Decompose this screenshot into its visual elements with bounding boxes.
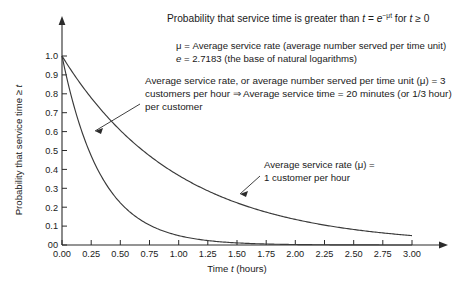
x-axis-title-lead: Time: [207, 263, 231, 274]
annotation-mu1-arrowhead: [240, 191, 248, 197]
x-axis-title-rest: (hours): [234, 263, 267, 274]
x-axis-tick-labels: 0.00 0.25 0.50 0.75 1.00 1.25 1.50 1.75 …: [53, 249, 421, 259]
annotation-mu3-line-2: customers per hour ⇒ Average service tim…: [145, 88, 452, 99]
exponential-service-time-chart: Probability that service time is greater…: [0, 0, 474, 287]
x-tick-label-0: 0.00: [53, 249, 71, 259]
y-axis-title-var: t: [13, 84, 24, 87]
x-tick-label-10: 2.50: [345, 249, 363, 259]
x-tick-label-12: 3.00: [403, 249, 421, 259]
y-axis-title: Probability that service time ≥ t: [13, 84, 24, 215]
x-tick-label-5: 1.25: [199, 249, 217, 259]
x-tick-label-4: 1.00: [170, 249, 188, 259]
definition-line-e: e = 2.7183 (the base of natural logarith…: [176, 53, 357, 64]
x-tick-label-3: 0.75: [141, 249, 159, 259]
x-tick-label-8: 2.00: [286, 249, 304, 259]
x-tick-label-6: 1.50: [228, 249, 246, 259]
annotation-mu1-line-2: 1 customer per hour: [264, 172, 351, 183]
annotation-mu1-line-1: Average service rate (μ) =: [264, 159, 375, 170]
y-axis-arrowhead: [59, 16, 66, 25]
x-tick-label-2: 0.50: [111, 249, 129, 259]
title-tail-rest: ≥ 0: [412, 13, 429, 24]
x-tick-label-9: 2.25: [316, 249, 334, 259]
x-axis-title: Time t (hours): [207, 263, 266, 274]
x-tick-label-1: 0.25: [82, 249, 100, 259]
y-tick-label-8: 0.8: [45, 89, 58, 99]
chart-title: Probability that service time is greater…: [167, 12, 430, 24]
y-tick-label-3: 0.3: [45, 184, 58, 194]
x-axis-arrowhead: [439, 242, 448, 249]
title-equals: =: [365, 13, 377, 24]
y-tick-label-5: 0.5: [45, 146, 58, 156]
y-tick-label-1: 0.1: [45, 221, 58, 231]
annotation-mu1-leader-line: [240, 176, 260, 194]
y-tick-label-9: 0.9: [45, 70, 58, 80]
y-tick-label-10: 1.0: [45, 51, 58, 61]
annotation-mu3-line-3: per customer: [145, 101, 203, 112]
y-axis-tick-labels: 00 0.1 0.2 0.3 0.4 0.5 0.6 0.7 0.8 0.9 1…: [45, 51, 58, 250]
chart-figure: Probability that service time is greater…: [0, 0, 474, 287]
definition-line-mu: μ = Average service rate (average number…: [176, 40, 446, 51]
definition-mu-rest: = Average service rate (average number s…: [182, 40, 447, 51]
y-tick-label-7: 0.7: [45, 108, 58, 118]
title-lead: Probability that service time is greater…: [167, 13, 362, 24]
x-tick-label-7: 1.75: [257, 249, 275, 259]
y-axis-title-lead: Probability that service time ≥: [13, 87, 24, 215]
title-exponent: −μt: [383, 12, 393, 20]
y-tick-label-2: 0.2: [45, 203, 58, 213]
definition-e-rest: = 2.7183 (the base of natural logarithms…: [181, 53, 357, 64]
title-tail-lead: for: [392, 13, 410, 24]
annotation-mu3-line-1: Average service rate, or average number …: [145, 75, 446, 86]
y-axis-ticks: [62, 56, 67, 245]
x-tick-label-11: 2.75: [374, 249, 392, 259]
y-tick-label-4: 0.4: [45, 165, 58, 175]
y-tick-label-6: 0.6: [45, 127, 58, 137]
